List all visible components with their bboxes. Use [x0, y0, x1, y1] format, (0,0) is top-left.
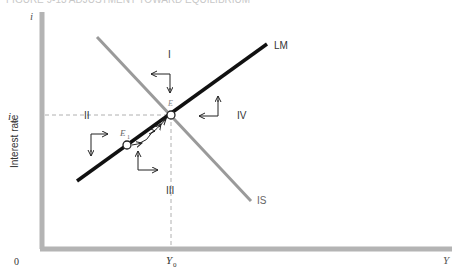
equilibrium-point-e	[167, 111, 175, 119]
svg-text:1: 1	[127, 134, 130, 140]
y0-tick-label: Y 0	[166, 254, 177, 269]
svg-text:0: 0	[13, 117, 17, 125]
origin-label: 0	[14, 256, 19, 267]
point-e-label: E	[167, 99, 173, 108]
is-label: IS	[257, 195, 267, 206]
svg-text:0: 0	[173, 261, 177, 269]
lm-label: LM	[274, 40, 288, 51]
region-iii-label: III	[166, 185, 174, 196]
region-iv-arrows	[199, 96, 218, 116]
is-curve	[97, 37, 251, 201]
is-lm-diagram: i Interest rate 0 Y i 0 Y 0 LM IS E E 1 …	[0, 0, 460, 272]
point-e1	[123, 141, 131, 149]
svg-text:E: E	[119, 128, 126, 138]
region-iii-arrows	[138, 151, 158, 170]
region-ii-arrows	[91, 134, 108, 156]
axes	[40, 12, 452, 249]
region-ii-label: II	[84, 110, 90, 121]
region-i-arrows	[151, 74, 170, 93]
adjustment-path-arrows	[132, 119, 166, 145]
point-e1-label: E 1	[119, 128, 130, 140]
svg-text:i: i	[8, 110, 11, 122]
region-iv-label: IV	[237, 110, 247, 121]
x-axis-symbol: Y	[443, 254, 451, 266]
y-axis-symbol: i	[30, 10, 33, 22]
region-i-label: I	[168, 49, 171, 60]
